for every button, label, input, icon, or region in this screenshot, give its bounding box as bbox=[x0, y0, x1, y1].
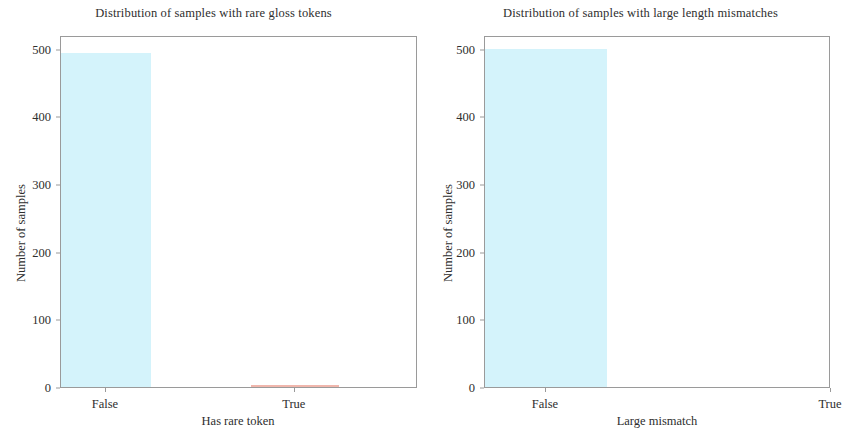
x-tick-label: True bbox=[282, 397, 305, 412]
y-tick-mark bbox=[480, 49, 484, 50]
y-tick-label: 300 bbox=[456, 177, 475, 192]
y-tick-label: 0 bbox=[45, 381, 51, 396]
x-axis-ticks-right: FalseTrue bbox=[484, 388, 830, 412]
y-tick-label: 200 bbox=[32, 245, 51, 260]
y-tick-label: 300 bbox=[32, 177, 51, 192]
x-tick-mark bbox=[830, 388, 831, 392]
y-tick-label: 100 bbox=[32, 313, 51, 328]
x-tick-label: False bbox=[92, 397, 118, 412]
x-tick-mark bbox=[545, 388, 546, 392]
y-tick-label: 100 bbox=[456, 313, 475, 328]
y-tick-mark bbox=[480, 117, 484, 118]
figure-canvas: Distribution of samples with rare gloss … bbox=[0, 0, 854, 436]
x-axis-label-left: Has rare token bbox=[202, 414, 275, 429]
y-axis-ticks-left: 0100200300400500 bbox=[0, 36, 60, 388]
x-axis-label-right: Large mismatch bbox=[617, 414, 698, 429]
x-tick-label: True bbox=[818, 397, 841, 412]
plot-area-right bbox=[484, 36, 830, 388]
chart-title-right: Distribution of samples with large lengt… bbox=[427, 6, 854, 21]
y-tick-label: 400 bbox=[456, 110, 475, 125]
y-tick-label: 200 bbox=[456, 245, 475, 260]
y-tick-mark bbox=[56, 49, 60, 50]
plot-area-left bbox=[60, 36, 417, 388]
y-axis-label-left: Number of samples bbox=[14, 184, 29, 282]
x-axis-ticks-left: FalseTrue bbox=[60, 388, 417, 412]
x-tick-mark bbox=[294, 388, 295, 392]
bar-true bbox=[251, 385, 338, 387]
y-tick-label: 0 bbox=[469, 381, 475, 396]
y-tick-mark bbox=[480, 320, 484, 321]
y-tick-label: 400 bbox=[32, 110, 51, 125]
chart-panel-left: Distribution of samples with rare gloss … bbox=[0, 0, 427, 436]
y-tick-mark bbox=[56, 320, 60, 321]
chart-title-left: Distribution of samples with rare gloss … bbox=[0, 6, 427, 21]
x-tick-mark bbox=[105, 388, 106, 392]
y-axis-label-right: Number of samples bbox=[441, 184, 456, 282]
y-tick-label: 500 bbox=[32, 42, 51, 57]
y-tick-mark bbox=[480, 252, 484, 253]
bar-false bbox=[485, 49, 607, 387]
chart-panel-right: Distribution of samples with large lengt… bbox=[427, 0, 854, 436]
y-tick-mark bbox=[56, 117, 60, 118]
y-tick-label: 500 bbox=[456, 42, 475, 57]
x-tick-label: False bbox=[532, 397, 558, 412]
bar-false bbox=[61, 53, 151, 387]
y-tick-mark bbox=[480, 184, 484, 185]
y-tick-mark bbox=[56, 184, 60, 185]
y-tick-mark bbox=[56, 252, 60, 253]
